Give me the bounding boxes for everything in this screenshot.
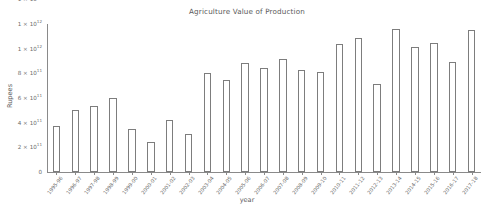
x-tick-label: 1999-00 <box>121 175 139 195</box>
bar <box>241 63 249 172</box>
y-tick-label: 1 × 1012 <box>18 21 47 27</box>
bar <box>317 72 325 172</box>
plot-area: 02 × 10114 × 10116 × 10118 × 10111 × 101… <box>47 24 481 172</box>
bar <box>204 73 212 172</box>
bar <box>411 47 419 172</box>
x-tick-mark <box>189 172 190 175</box>
x-tick-mark <box>75 172 76 175</box>
x-tick-label: 1997-98 <box>83 175 101 195</box>
x-tick-label: 2001-02 <box>159 175 177 195</box>
bar <box>260 68 268 172</box>
bar <box>128 129 136 172</box>
x-tick-label: 1998-99 <box>102 175 120 195</box>
y-tick-label: 1 × 1012 <box>18 46 47 52</box>
y-tick-label: 0 <box>38 169 47 175</box>
x-tick-mark <box>339 172 340 175</box>
x-tick-label: 2008-09 <box>291 175 309 195</box>
bar <box>223 80 231 172</box>
bar <box>147 142 155 172</box>
x-tick-label: 2003-04 <box>196 175 214 195</box>
x-tick-label: 2004-05 <box>215 175 233 195</box>
x-tick-label: 2012-13 <box>366 175 384 195</box>
x-tick-label: 1995-96 <box>46 175 64 195</box>
bar <box>449 62 457 172</box>
bar <box>185 134 193 172</box>
bar <box>298 70 306 172</box>
bar <box>90 106 98 172</box>
y-tick-label: 8 × 1011 <box>18 70 47 76</box>
bar <box>279 59 287 172</box>
bar-series <box>47 24 481 172</box>
y-tick-label: 6 × 1011 <box>18 95 47 101</box>
x-tick-label: 2015-16 <box>423 175 441 195</box>
x-tick-label: 2000-01 <box>140 175 158 195</box>
bar <box>430 43 438 172</box>
x-tick-mark <box>207 172 208 175</box>
bar <box>336 44 344 172</box>
bar <box>109 98 117 172</box>
y-tick-label: 2 × 1011 <box>18 144 47 150</box>
x-tick-label: 2002-03 <box>178 175 196 195</box>
bar <box>53 126 61 172</box>
x-tick-mark <box>453 172 454 175</box>
x-tick-label: 2011-12 <box>347 175 365 195</box>
x-tick-label: 2013-14 <box>385 175 403 195</box>
x-tick-label: 2014-15 <box>404 175 422 195</box>
x-tick-label: 2007-08 <box>272 175 290 195</box>
bar <box>373 84 381 172</box>
x-axis-label: year <box>0 196 494 204</box>
x-tick-mark <box>56 172 57 175</box>
x-tick-label: 2016-17 <box>442 175 460 195</box>
bar <box>166 120 174 172</box>
chart-title: Agriculture Value of Production <box>0 7 494 16</box>
bar <box>468 30 476 172</box>
x-tick-mark <box>472 172 473 175</box>
y-axis-label: Rupees <box>6 56 14 136</box>
x-tick-label: 2005-06 <box>234 175 252 195</box>
x-tick-label: 2006-07 <box>253 175 271 195</box>
x-tick-mark <box>321 172 322 175</box>
x-tick-label: 2009-10 <box>310 175 328 195</box>
y-tick-label: 4 × 1011 <box>18 120 47 126</box>
x-tick-label: 1996-97 <box>64 175 82 195</box>
bar <box>355 38 363 172</box>
chart-root: Agriculture Value of Production 02 × 101… <box>0 0 494 214</box>
x-tick-mark <box>358 172 359 175</box>
bar <box>72 110 80 172</box>
bar <box>392 29 400 172</box>
x-tick-label: 2010-11 <box>329 175 347 195</box>
x-tick-mark <box>170 172 171 175</box>
x-tick-label: 2017-18 <box>461 175 479 195</box>
y-tick-label: 1 × 1012 <box>18 0 47 2</box>
